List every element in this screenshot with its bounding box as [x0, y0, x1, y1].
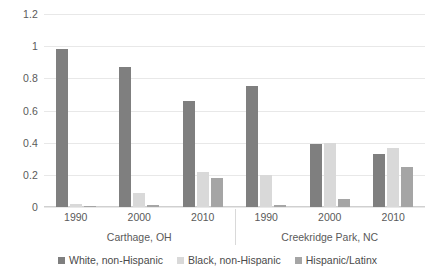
legend-swatch-icon — [295, 257, 302, 264]
legend-item[interactable]: Black, non-Hispanic — [177, 254, 281, 266]
bar-group — [298, 14, 362, 207]
y-axis-tick-label: 1.2 — [0, 9, 38, 19]
bar-group — [362, 14, 426, 207]
category-ticks: 199020002010 — [44, 209, 235, 225]
y-axis-tick-label: 1 — [0, 41, 38, 51]
y-axis-tick-label: 0 — [0, 202, 38, 212]
bar[interactable] — [324, 143, 336, 207]
y-axis-labels: 1.210.80.60.40.20 — [0, 0, 38, 278]
legend-item[interactable]: Hispanic/Latinx — [295, 254, 377, 266]
category-cluster: 199020002010Carthage, OH — [44, 209, 235, 249]
bar[interactable] — [211, 178, 223, 207]
chart-legend: White, non-HispanicBlack, non-HispanicHi… — [0, 254, 435, 266]
bar[interactable] — [274, 205, 286, 207]
bar-group — [44, 14, 108, 207]
bar-group — [171, 14, 235, 207]
bar[interactable] — [246, 86, 258, 207]
legend-swatch-icon — [58, 257, 65, 264]
bar-cluster — [44, 14, 235, 207]
legend-label: White, non-Hispanic — [69, 254, 163, 266]
bar[interactable] — [56, 49, 68, 207]
y-axis-tick-label: 0.6 — [0, 106, 38, 116]
bar-clusters — [44, 14, 425, 207]
axis-divider — [235, 209, 236, 245]
legend-label: Black, non-Hispanic — [188, 254, 281, 266]
cluster-label: Carthage, OH — [44, 227, 235, 247]
bar[interactable] — [260, 175, 272, 207]
y-axis-tick-label: 0.4 — [0, 138, 38, 148]
category-tick-label: 1990 — [235, 209, 299, 225]
y-axis-tick-label: 0.2 — [0, 170, 38, 180]
gridline — [44, 207, 425, 208]
y-axis-tick-label: 0.8 — [0, 73, 38, 83]
category-tick-label: 2000 — [108, 209, 172, 225]
bar[interactable] — [338, 199, 350, 207]
bar[interactable] — [84, 206, 96, 207]
category-axis: 199020002010Carthage, OH199020002010Cree… — [44, 209, 425, 249]
bar[interactable] — [310, 144, 322, 207]
legend-item[interactable]: White, non-Hispanic — [58, 254, 163, 266]
bar-cluster — [235, 14, 426, 207]
legend-label: Hispanic/Latinx — [306, 254, 377, 266]
cluster-label: Creekridge Park, NC — [235, 227, 426, 247]
category-ticks: 199020002010 — [235, 209, 426, 225]
bar-chart: 1.210.80.60.40.20 199020002010Carthage, … — [0, 0, 435, 278]
bar[interactable] — [147, 205, 159, 207]
bar[interactable] — [197, 172, 209, 207]
bar[interactable] — [70, 204, 82, 207]
bar[interactable] — [183, 101, 195, 207]
bar[interactable] — [119, 67, 131, 207]
bar[interactable] — [387, 148, 399, 208]
bar-group — [235, 14, 299, 207]
category-tick-label: 2000 — [298, 209, 362, 225]
category-cluster: 199020002010Creekridge Park, NC — [235, 209, 426, 249]
category-tick-label: 2010 — [171, 209, 235, 225]
bar[interactable] — [373, 154, 385, 207]
category-tick-label: 2010 — [362, 209, 426, 225]
bar[interactable] — [133, 193, 145, 207]
bar-group — [108, 14, 172, 207]
legend-swatch-icon — [177, 257, 184, 264]
category-tick-label: 1990 — [44, 209, 108, 225]
bar[interactable] — [401, 167, 413, 207]
